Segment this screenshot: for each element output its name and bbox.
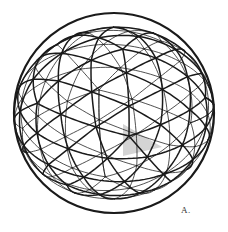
back-edge [137, 166, 167, 173]
front-edge [182, 110, 189, 145]
front-edge [161, 89, 163, 124]
back-edge [102, 153, 106, 177]
back-edge [38, 101, 67, 116]
back-edge [52, 168, 72, 177]
front-edge [156, 50, 176, 59]
back-edge [99, 68, 120, 90]
back-edge [81, 69, 99, 90]
front-edge [61, 114, 96, 127]
front-edge [36, 103, 37, 133]
front-edge [91, 60, 92, 92]
front-edge [190, 110, 206, 127]
front-edge [18, 87, 20, 112]
front-edge [126, 58, 155, 73]
front-edge [187, 77, 190, 110]
front-edge [99, 35, 139, 37]
back-edge [99, 99, 132, 120]
front-edge [33, 53, 61, 79]
front-edge [139, 33, 154, 37]
back-edge [88, 30, 128, 32]
front-edge [58, 81, 61, 114]
front-edge [162, 77, 187, 90]
back-edge [67, 90, 99, 101]
front-edge [147, 157, 163, 174]
front-edge [61, 114, 69, 148]
geodesic-sphere-diagram [0, 0, 228, 232]
back-edge [167, 112, 170, 145]
front-edge [61, 92, 92, 115]
front-edge [74, 35, 99, 38]
figure-label: A. [181, 205, 191, 215]
front-edge [161, 125, 183, 145]
front-edge [100, 182, 125, 195]
back-edge [167, 93, 191, 112]
front-edge [129, 106, 161, 125]
front-edge [92, 92, 129, 106]
front-edge [161, 110, 190, 125]
front-edge [123, 49, 127, 73]
front-edge [58, 81, 91, 92]
front-edge [20, 103, 37, 111]
back-edge [191, 123, 195, 147]
front-edge [37, 114, 61, 133]
front-edge [92, 73, 127, 92]
front-edge [107, 158, 124, 181]
back-edge [99, 90, 132, 99]
front-edge [37, 103, 61, 114]
back-edge [65, 101, 67, 136]
back-edge [160, 77, 168, 111]
front-edge [126, 73, 162, 90]
back-edge [104, 31, 129, 44]
front-edge [206, 127, 209, 139]
front-edge [126, 73, 128, 106]
front-edge [92, 92, 96, 127]
front-edge [33, 79, 37, 103]
back-edge [66, 137, 102, 154]
front-edge [49, 149, 69, 165]
back-edge [46, 81, 68, 101]
front-edge [156, 58, 162, 89]
front-edge [96, 106, 129, 127]
front-edge [62, 53, 92, 60]
